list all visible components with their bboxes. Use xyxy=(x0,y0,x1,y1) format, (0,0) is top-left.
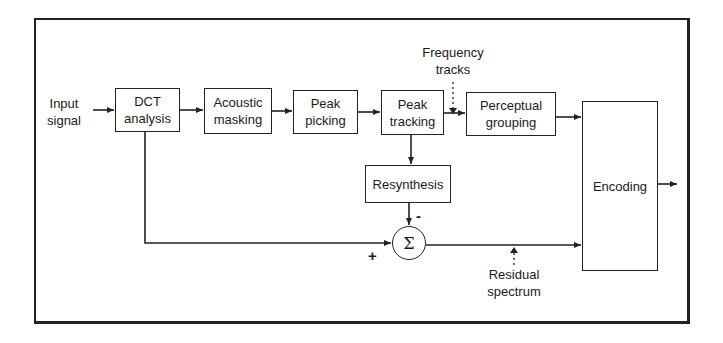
peak-tracking-line-2: tracking xyxy=(390,113,436,130)
peak-tracking-line-1: Peak xyxy=(390,96,436,113)
residual-spectrum-label: Residual spectrum xyxy=(474,266,554,300)
perceptual-line-1: Perceptual xyxy=(480,97,542,114)
dct-analysis-block[interactable]: DCT analysis xyxy=(115,88,180,132)
peak-picking-line-1: Peak xyxy=(305,95,345,112)
dct-label-line-1: DCT xyxy=(124,93,171,110)
resynthesis-label: Resynthesis xyxy=(373,176,444,193)
frequency-tracks-line-1: Frequency xyxy=(413,44,493,61)
acoustic-label-line-1: Acoustic xyxy=(213,94,262,111)
frequency-tracks-line-2: tracks xyxy=(413,61,493,78)
input-signal-line-2: signal xyxy=(40,112,88,129)
plus-sign: + xyxy=(368,248,377,263)
acoustic-masking-block[interactable]: Acoustic masking xyxy=(204,88,272,134)
sigma-symbol: Σ xyxy=(403,234,414,253)
dct-label-line-2: analysis xyxy=(124,110,171,127)
acoustic-label-line-2: masking xyxy=(213,111,262,128)
peak-picking-block[interactable]: Peak picking xyxy=(293,90,358,134)
input-signal-label: Input signal xyxy=(40,95,88,129)
minus-sign: - xyxy=(416,208,421,223)
summing-junction[interactable]: Σ xyxy=(392,226,426,260)
residual-spectrum-line-1: Residual xyxy=(474,266,554,283)
residual-spectrum-line-2: spectrum xyxy=(474,283,554,300)
input-signal-line-1: Input xyxy=(40,95,88,112)
perceptual-grouping-block[interactable]: Perceptual grouping xyxy=(466,92,556,136)
peak-picking-line-2: picking xyxy=(305,112,345,129)
frequency-tracks-label: Frequency tracks xyxy=(413,44,493,78)
perceptual-line-2: grouping xyxy=(480,114,542,131)
encoding-block[interactable]: Encoding xyxy=(582,101,658,271)
peak-tracking-block[interactable]: Peak tracking xyxy=(381,90,444,135)
encoding-label: Encoding xyxy=(593,178,647,195)
resynthesis-block[interactable]: Resynthesis xyxy=(365,165,451,203)
